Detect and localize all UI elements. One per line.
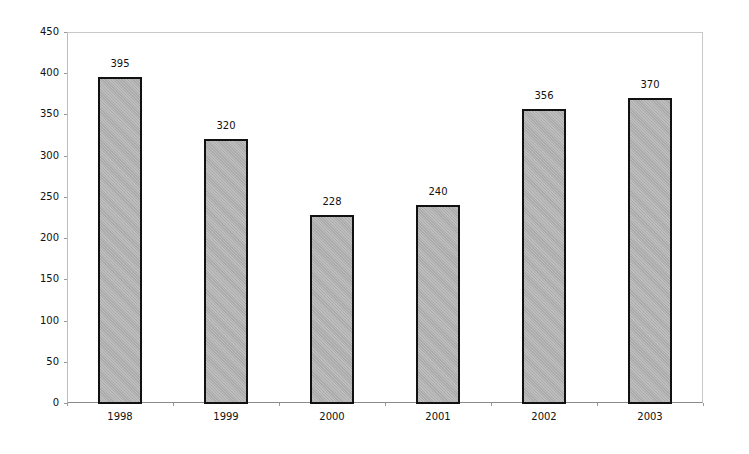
y-tick-mark <box>64 279 67 280</box>
bar-1998 <box>98 77 142 404</box>
y-tick-label: 100 <box>19 315 59 327</box>
bar-2003 <box>628 98 672 404</box>
y-tick-label: 400 <box>19 67 59 79</box>
x-tick-mark <box>279 403 280 406</box>
bar-2001 <box>416 205 460 404</box>
y-tick-mark <box>64 362 67 363</box>
y-tick-label: 250 <box>19 191 59 203</box>
x-tick-label: 2002 <box>514 411 574 423</box>
y-tick-label: 0 <box>19 397 59 409</box>
data-label: 356 <box>514 90 574 102</box>
x-tick-label: 2001 <box>408 411 468 423</box>
bar-1999 <box>204 139 248 404</box>
data-label: 228 <box>302 196 362 208</box>
y-tick-label: 450 <box>19 26 59 38</box>
x-tick-mark <box>491 403 492 406</box>
x-tick-mark <box>703 403 704 406</box>
data-label: 395 <box>90 58 150 70</box>
x-tick-mark <box>67 403 68 406</box>
y-tick-label: 300 <box>19 150 59 162</box>
bar-2000 <box>310 215 354 404</box>
y-tick-mark <box>64 32 67 33</box>
y-tick-mark <box>64 73 67 74</box>
plot-area <box>67 32 703 403</box>
x-tick-label: 1999 <box>196 411 256 423</box>
data-label: 320 <box>196 120 256 132</box>
y-tick-mark <box>64 238 67 239</box>
data-label: 370 <box>620 79 680 91</box>
y-tick-mark <box>64 114 67 115</box>
bar-chart: 050100150200250300350400450 199819992000… <box>0 0 749 454</box>
x-tick-label: 1998 <box>90 411 150 423</box>
y-tick-mark <box>64 321 67 322</box>
y-tick-label: 350 <box>19 108 59 120</box>
x-tick-mark <box>173 403 174 406</box>
x-tick-label: 2003 <box>620 411 680 423</box>
bar-2002 <box>522 109 566 404</box>
x-tick-mark <box>385 403 386 406</box>
y-tick-label: 50 <box>19 356 59 368</box>
y-tick-label: 200 <box>19 232 59 244</box>
x-tick-mark <box>597 403 598 406</box>
data-label: 240 <box>408 186 468 198</box>
y-tick-mark <box>64 156 67 157</box>
x-tick-label: 2000 <box>302 411 362 423</box>
y-tick-mark <box>64 197 67 198</box>
y-tick-label: 150 <box>19 273 59 285</box>
